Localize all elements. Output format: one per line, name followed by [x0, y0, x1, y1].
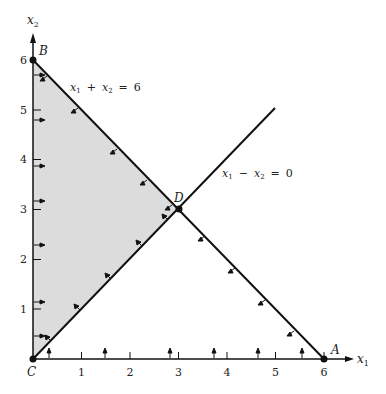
x2-axis-label: x2	[27, 13, 39, 29]
vertex-d-label: D	[173, 191, 184, 205]
x-tick-1: 1	[78, 366, 85, 379]
y-tick-3: 3	[20, 203, 27, 216]
feasible-region	[33, 60, 179, 359]
y-tick-4: 4	[20, 153, 27, 166]
vertex-c	[30, 356, 37, 363]
y-tick-1: 1	[20, 303, 27, 316]
x-ticks	[82, 352, 325, 359]
vertex-b	[30, 57, 37, 64]
x-tick-6: 6	[321, 366, 328, 379]
x1-axis-label: x1	[357, 352, 369, 368]
x-axis-direction-arrows	[47, 348, 304, 358]
vertex-a-label: A	[330, 343, 340, 357]
x1-axis-arrow-icon	[345, 356, 354, 362]
equation-diff-label: x1−x2=0	[222, 167, 293, 181]
vertex-a	[321, 356, 328, 363]
y-tick-2: 2	[20, 253, 27, 266]
y-tick-5: 5	[20, 104, 27, 117]
vertex-c-label: C	[27, 365, 36, 379]
x2-axis-arrow-icon	[30, 33, 36, 43]
vertex-d	[176, 206, 183, 213]
vertex-b-label: B	[38, 44, 48, 58]
x-tick-4: 4	[224, 366, 231, 379]
lp-diagram: 1 2 3 4 5 6 1 2 3 4 5 6 x1 x2	[0, 0, 386, 394]
y-tick-6: 6	[20, 54, 27, 67]
x-tick-3: 3	[175, 366, 182, 379]
x-tick-5: 5	[272, 366, 279, 379]
equation-sum-label: x1+x2=6	[70, 81, 141, 95]
x-tick-2: 2	[127, 366, 134, 379]
